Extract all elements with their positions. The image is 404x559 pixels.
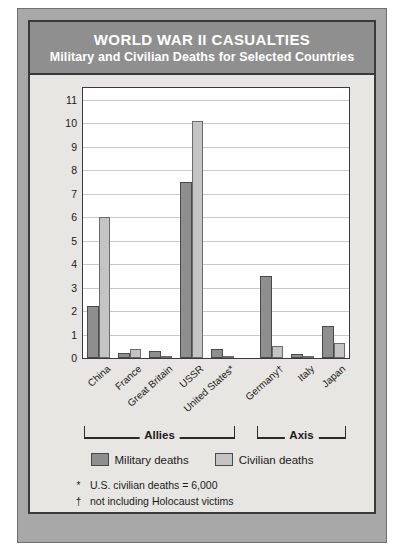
bar-civilian <box>99 217 111 358</box>
legend-item-military: Military deaths <box>91 453 189 466</box>
page-title: WORLD WAR II CASUALTIES <box>94 31 310 48</box>
y-axis-tick-label: 0 <box>71 352 77 364</box>
footnote: *U.S. civilian deaths = 6,000 <box>74 478 364 494</box>
bar-series <box>83 88 349 358</box>
bar-civilian <box>192 121 204 358</box>
civilian-swatch-icon <box>215 453 233 466</box>
x-axis-tick-label: China <box>85 363 112 389</box>
group-brackets: AlliesAxis <box>82 426 350 446</box>
bracket-allies: Allies <box>84 426 235 439</box>
x-axis-tick-label: USSR <box>177 363 205 390</box>
bar-military <box>211 349 223 358</box>
bar-military <box>291 354 303 358</box>
title-band: WORLD WAR II CASUALTIES Military and Civ… <box>30 22 374 75</box>
chart-area: Deaths (in millions) 01234567891011 Chin… <box>30 75 374 516</box>
legend-label-military: Military deaths <box>115 454 189 466</box>
page-subtitle: Military and Civilian Deaths for Selecte… <box>50 50 354 64</box>
chart-page: WORLD WAR II CASUALTIES Military and Civ… <box>0 0 404 559</box>
legend-label-civilian: Civilian deaths <box>239 454 314 466</box>
bar-civilian <box>223 356 235 358</box>
footnotes: *U.S. civilian deaths = 6,000†not includ… <box>74 478 364 510</box>
military-swatch-icon <box>91 453 109 466</box>
bar-civilian <box>130 349 142 358</box>
footnote-text: not including Holocaust victims <box>90 494 234 510</box>
y-axis-tick-label: 11 <box>66 94 77 106</box>
y-axis-tick-label: 5 <box>71 235 77 247</box>
footnote: †not including Holocaust victims <box>74 494 364 510</box>
plot-area: 01234567891011 ChinaFranceGreat BritainU… <box>82 87 350 359</box>
x-axis-tick-label: Germany† <box>243 363 285 402</box>
y-axis-tick-label: 9 <box>71 141 77 153</box>
bar-civilian <box>272 346 284 358</box>
chart-card: WORLD WAR II CASUALTIES Military and Civ… <box>28 20 376 514</box>
y-axis-tick-label: 3 <box>71 282 77 294</box>
y-axis-tick-label: 6 <box>71 211 77 223</box>
y-axis-tick-label: 4 <box>71 258 77 270</box>
y-axis-tick-label: 2 <box>71 305 77 317</box>
y-axis-tick-label: 8 <box>71 164 77 176</box>
bar-civilian <box>303 356 315 358</box>
footnote-marker: † <box>74 494 83 509</box>
bar-military <box>322 326 334 358</box>
bracket-label: Allies <box>139 429 180 441</box>
y-axis-tick-label: 7 <box>71 188 77 200</box>
bar-military <box>149 351 161 358</box>
bar-civilian <box>161 356 173 358</box>
footnote-marker: * <box>74 478 83 493</box>
footnote-text: U.S. civilian deaths = 6,000 <box>90 478 218 494</box>
bracket-axis: Axis <box>257 426 346 439</box>
bar-military <box>87 306 99 358</box>
bar-civilian <box>334 343 346 358</box>
bar-military <box>118 353 130 358</box>
chart-legend: Military deaths Civilian deaths <box>30 453 374 466</box>
x-axis-tick-label: Italy <box>295 363 316 383</box>
bracket-label: Axis <box>284 429 318 441</box>
bar-military <box>260 276 272 358</box>
y-axis-tick-label: 1 <box>71 329 77 341</box>
x-axis-tick-label: Japan <box>319 363 347 389</box>
bar-military <box>180 182 192 358</box>
y-axis-tick-label: 10 <box>65 117 77 129</box>
legend-item-civilian: Civilian deaths <box>215 453 314 466</box>
